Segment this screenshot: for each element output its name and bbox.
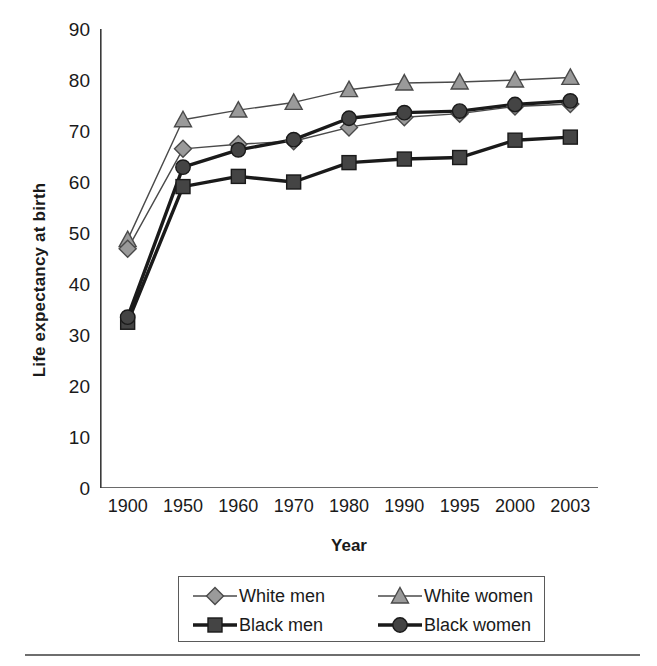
data-point-circle-icon — [231, 143, 245, 157]
plot-svg — [100, 29, 598, 488]
data-point-square-icon — [508, 133, 522, 147]
legend-label-white-women: White women — [424, 587, 533, 605]
y-tick-label-10: 10 — [46, 428, 90, 447]
legend-row-2: Black men Black women — [179, 610, 544, 639]
x-tick-label-1995: 1995 — [429, 497, 491, 515]
y-tick-label-40: 40 — [46, 275, 90, 294]
data-point-triangle-icon — [562, 69, 579, 84]
x-tick-label-2003: 2003 — [539, 497, 601, 515]
x-tick-label-1960: 1960 — [207, 497, 269, 515]
data-point-circle-icon — [176, 160, 190, 174]
data-point-circle-icon — [120, 310, 134, 324]
legend-item-white-men[interactable]: White men — [179, 585, 376, 607]
data-point-circle-icon — [452, 104, 466, 118]
data-point-circle-icon — [508, 97, 522, 111]
chart-legend: White men White women Black men Black wo… — [178, 576, 545, 642]
x-tick-label-1950: 1950 — [152, 497, 214, 515]
axes — [100, 29, 598, 488]
legend-item-white-women[interactable]: White women — [376, 585, 544, 607]
data-point-square-icon — [176, 180, 190, 194]
markers-black-men — [121, 130, 578, 329]
x-tick-label-1970: 1970 — [263, 497, 325, 515]
plot-area — [100, 29, 598, 488]
legend-label-black-women: Black women — [424, 616, 531, 634]
x-tick-label-2000: 2000 — [484, 497, 546, 515]
data-point-circle-icon — [342, 111, 356, 125]
y-tick-label-50: 50 — [46, 224, 90, 243]
data-point-square-icon — [563, 130, 577, 144]
y-tick-label-90: 90 — [46, 20, 90, 39]
legend-swatch-triangle-icon — [376, 585, 424, 607]
data-point-square-icon — [397, 152, 411, 166]
data-point-square-icon — [342, 156, 356, 170]
data-point-square-icon — [231, 169, 245, 183]
y-tick-label-30: 30 — [46, 326, 90, 345]
data-point-square-icon — [453, 151, 467, 165]
data-point-diamond-icon — [175, 140, 192, 157]
data-point-circle-icon — [563, 94, 577, 108]
x-tick-label-1980: 1980 — [318, 497, 380, 515]
y-tick-label-80: 80 — [46, 71, 90, 90]
x-axis-tick-labels: 190019501960197019801990199520002003 — [100, 497, 598, 523]
figure-life-expectancy-chart: Life expectancy at birth 908070605040302… — [0, 0, 657, 666]
y-tick-label-20: 20 — [46, 377, 90, 396]
data-point-circle-icon — [393, 617, 407, 631]
y-tick-label-60: 60 — [46, 173, 90, 192]
data-point-square-icon — [287, 175, 301, 189]
legend-label-white-men: White men — [239, 587, 325, 605]
legend-swatch-diamond-icon — [191, 585, 239, 607]
legend-item-black-women[interactable]: Black women — [376, 614, 544, 636]
legend-row-1: White men White women — [179, 581, 544, 610]
legend-swatch-square-icon — [191, 614, 239, 636]
footer-rule — [25, 654, 640, 656]
data-point-triangle-icon — [391, 587, 408, 602]
x-tick-label-1990: 1990 — [373, 497, 435, 515]
legend-swatch-circle-icon — [376, 614, 424, 636]
y-tick-label-0: 0 — [46, 479, 90, 498]
legend-item-black-men[interactable]: Black men — [179, 614, 376, 636]
y-axis-tick-labels: 9080706050403020100 — [44, 0, 90, 666]
y-tick-label-70: 70 — [46, 122, 90, 141]
data-point-diamond-icon — [207, 587, 224, 604]
data-point-square-icon — [208, 618, 222, 632]
data-point-circle-icon — [397, 105, 411, 119]
data-point-circle-icon — [286, 132, 300, 146]
x-axis-title: Year — [100, 536, 598, 556]
x-tick-label-1900: 1900 — [97, 497, 159, 515]
legend-label-black-men: Black men — [239, 616, 323, 634]
